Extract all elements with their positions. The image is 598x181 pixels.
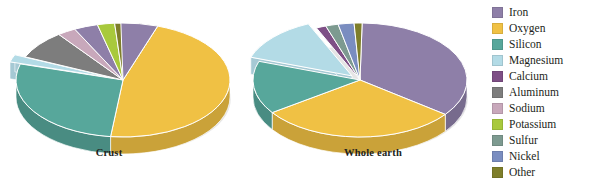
legend-swatch-icon	[492, 103, 503, 114]
legend-swatch-icon	[492, 135, 503, 146]
pie-chart-crust: Crust	[0, 0, 250, 181]
legend-item-label: Nickel	[509, 150, 540, 162]
legend-item-label: Other	[509, 166, 535, 178]
legend-swatch-icon	[492, 23, 503, 34]
pie-whole-earth-title: Whole earth	[248, 147, 498, 158]
legend-item-label: Potassium	[509, 118, 556, 130]
legend-swatch-icon	[492, 167, 503, 178]
legend-item-label: Iron	[509, 6, 528, 18]
legend-item-magnesium: Magnesium	[492, 52, 598, 68]
legend-item-label: Silicon	[509, 38, 542, 50]
legend-item-label: Calcium	[509, 70, 548, 82]
legend: IronOxygenSiliconMagnesiumCalciumAluminu…	[492, 4, 598, 180]
figure-root: Crust Whole earth IronOxygenSiliconMagne…	[0, 0, 598, 181]
legend-swatch-icon	[492, 119, 503, 130]
pie-chart-whole-earth: Whole earth	[240, 0, 490, 181]
legend-swatch-icon	[492, 7, 503, 18]
legend-item-iron: Iron	[492, 4, 598, 20]
pie-crust-title: Crust	[0, 147, 234, 158]
legend-item-silicon: Silicon	[492, 36, 598, 52]
legend-swatch-icon	[492, 87, 503, 98]
legend-item-oxygen: Oxygen	[492, 20, 598, 36]
legend-swatch-icon	[492, 55, 503, 66]
legend-swatch-icon	[492, 39, 503, 50]
legend-item-label: Magnesium	[509, 54, 563, 66]
legend-swatch-icon	[492, 151, 503, 162]
legend-item-label: Sulfur	[509, 134, 538, 146]
legend-item-sulfur: Sulfur	[492, 132, 598, 148]
legend-item-other: Other	[492, 164, 598, 180]
legend-item-sodium: Sodium	[492, 100, 598, 116]
legend-item-nickel: Nickel	[492, 148, 598, 164]
legend-item-potassium: Potassium	[492, 116, 598, 132]
legend-item-label: Aluminum	[509, 86, 559, 98]
charts-area: Crust Whole earth	[0, 0, 480, 181]
legend-swatch-icon	[492, 71, 503, 82]
legend-item-label: Sodium	[509, 102, 545, 114]
legend-item-aluminum: Aluminum	[492, 84, 598, 100]
legend-item-label: Oxygen	[509, 22, 545, 34]
legend-item-calcium: Calcium	[492, 68, 598, 84]
